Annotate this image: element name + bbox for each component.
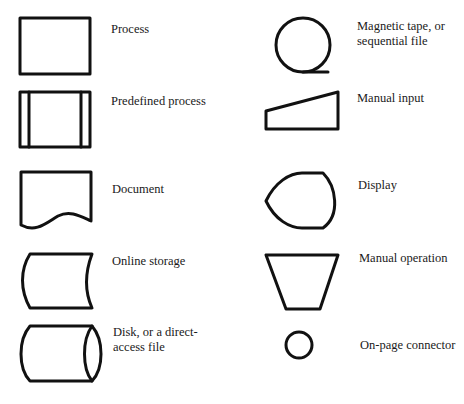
display-symbol [266, 173, 335, 228]
document-label: Document [112, 182, 164, 197]
predefined-process-symbol [20, 92, 90, 147]
online-storage-symbol [23, 254, 93, 308]
document-symbol [21, 172, 91, 228]
predefined-process-label: Predefined process [111, 94, 206, 109]
on-page-connector-symbol [286, 332, 312, 358]
magnetic-tape-label: Magnetic tape, or sequential file [357, 19, 445, 49]
online-storage-label: Online storage [112, 254, 185, 269]
process-label: Process [111, 22, 149, 37]
manual-operation-symbol [266, 255, 338, 309]
manual-input-symbol [266, 92, 338, 129]
magnetic-tape-symbol [276, 18, 330, 72]
disk-symbol [21, 326, 101, 381]
manual-operation-label: Manual operation [359, 251, 448, 266]
display-label: Display [358, 178, 397, 193]
process-symbol [20, 18, 90, 74]
manual-input-label: Manual input [357, 91, 424, 106]
on-page-connector-label: On-page connector [360, 338, 455, 353]
disk-label: Disk, or a direct- access file [113, 325, 198, 355]
